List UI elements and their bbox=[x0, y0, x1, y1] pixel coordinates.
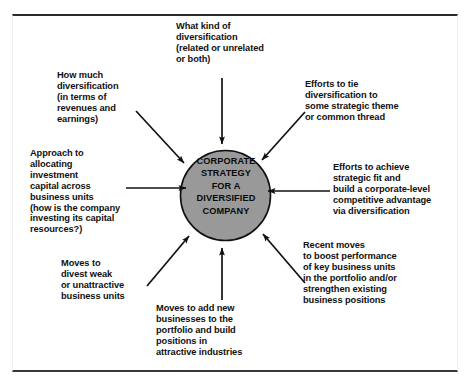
arrow-top-right bbox=[262, 112, 305, 160]
label-approach-to-allocating-investment-capital: Approach to allocating investment capita… bbox=[30, 148, 120, 235]
arrow-top-left bbox=[136, 111, 184, 163]
center-label: CORPORATE STRATEGY FOR A DIVERSIFIED COM… bbox=[181, 155, 271, 217]
label-moves-to-divest-weak-units: Moves to divest weak or unattractive bus… bbox=[61, 258, 125, 302]
label-efforts-to-achieve-strategic-fit: Efforts to achieve strategic fit and bui… bbox=[333, 162, 431, 217]
label-what-kind-of-diversification: What kind of diversification (related or… bbox=[176, 21, 264, 65]
diagram-canvas: CORPORATE STRATEGY FOR A DIVERSIFIED COM… bbox=[0, 0, 472, 388]
label-efforts-to-tie-diversification: Efforts to tie diversification to some s… bbox=[305, 79, 399, 123]
arrow-bottom-right bbox=[263, 234, 305, 283]
label-moves-to-add-new-businesses: Moves to add new businesses to the portf… bbox=[156, 303, 242, 358]
arrow-bottom-left bbox=[147, 236, 189, 286]
label-how-much-diversification: How much diversification (in terms of re… bbox=[57, 70, 119, 125]
label-recent-moves-to-boost-performance: Recent moves to boost performance of key… bbox=[303, 240, 397, 305]
